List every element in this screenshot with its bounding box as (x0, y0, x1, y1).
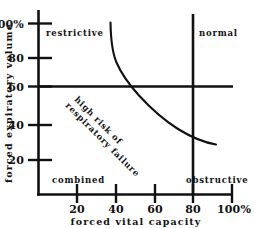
x-tick-label-20: 20 (69, 203, 85, 216)
zone-label-obstructive: obstructive (186, 175, 248, 185)
y-axis-title: forced expiratory volume (3, 23, 14, 183)
zone-label-restrictive: restrictive (46, 28, 104, 38)
x-tick-label-40: 40 (108, 203, 124, 216)
x-tick-label-100: 100% (217, 203, 252, 216)
zone-label-normal: normal (199, 28, 238, 38)
x-tick-label-80: 80 (185, 203, 201, 216)
zone-label-combined: combined (52, 175, 105, 185)
x-tick-label-60: 60 (147, 203, 163, 216)
chart-canvas: 100% 80 60 40 20 20 40 60 80 100% forced… (0, 0, 254, 228)
spirometry-quadrant-chart: 100% 80 60 40 20 20 40 60 80 100% forced… (0, 0, 254, 228)
x-axis-title: forced vital capacity (71, 216, 202, 227)
